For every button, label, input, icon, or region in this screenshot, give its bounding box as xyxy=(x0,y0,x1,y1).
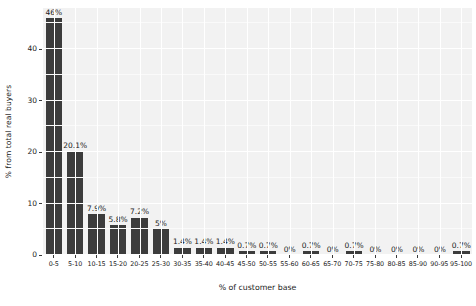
gridline-minor xyxy=(43,125,472,126)
x-axis-tick-mark xyxy=(353,255,354,258)
gridline-vertical xyxy=(375,8,376,255)
x-axis-tick: 0-5 xyxy=(43,255,64,279)
gridline-vertical xyxy=(290,8,291,255)
x-axis-tick: 90-95 xyxy=(429,255,450,279)
x-axis-tick-mark xyxy=(289,255,290,258)
x-axis-tick-label: 10-15 xyxy=(88,260,106,268)
x-axis-tick-mark xyxy=(396,255,397,258)
x-axis-tick-label: 50-55 xyxy=(259,260,277,268)
y-axis-tick-mark xyxy=(39,100,42,101)
x-axis-tick: 45-50 xyxy=(236,255,257,279)
x-axis-tick: 60-65 xyxy=(300,255,321,279)
x-axis-tick-label: 0-5 xyxy=(49,260,59,268)
x-axis-tick-mark xyxy=(310,255,311,258)
x-axis-tick: 15-20 xyxy=(107,255,128,279)
x-axis-tick: 75-80 xyxy=(364,255,385,279)
gridline-vertical xyxy=(311,8,312,255)
y-axis-tick-mark xyxy=(39,255,42,256)
bar-series: 46%20.1%7.9%5.8%7.2%5%1.4%1.4%1.4%0.7%0.… xyxy=(43,8,472,255)
gridline-vertical xyxy=(204,8,205,255)
y-axis-tick-label: 10 xyxy=(27,200,37,208)
y-axis-title-text: % from total real buyers xyxy=(5,84,14,177)
gridline-vertical xyxy=(97,8,98,255)
gridline-vertical xyxy=(418,8,419,255)
gridline-minor xyxy=(43,74,472,75)
x-axis-tick-mark xyxy=(117,255,118,258)
gridline-vertical xyxy=(140,8,141,255)
x-axis-tick-mark xyxy=(439,255,440,258)
gridline-major xyxy=(43,48,472,49)
x-axis-tick: 5-10 xyxy=(64,255,85,279)
x-axis-tick: 70-75 xyxy=(343,255,364,279)
y-axis-tick-mark xyxy=(39,49,42,50)
gridline-vertical xyxy=(161,8,162,255)
x-axis-tick-label: 65-70 xyxy=(323,260,341,268)
gridline-vertical xyxy=(333,8,334,255)
x-axis-tick: 30-35 xyxy=(172,255,193,279)
y-axis-tick-label: 40 xyxy=(27,45,37,53)
y-axis: 010203040 xyxy=(16,8,42,255)
x-axis-tick: 40-45 xyxy=(214,255,235,279)
x-axis-tick: 35-40 xyxy=(193,255,214,279)
x-axis-tick-label: 70-75 xyxy=(345,260,363,268)
x-axis: 0-55-1010-1515-2020-2525-3030-3535-4040-… xyxy=(43,255,472,279)
gridline-vertical xyxy=(354,8,355,255)
x-axis-tick-label: 15-20 xyxy=(109,260,127,268)
y-axis-tick-label: 20 xyxy=(27,148,37,156)
x-axis-tick-label: 35-40 xyxy=(195,260,213,268)
x-axis-tick-mark xyxy=(182,255,183,258)
x-axis-title: % of customer base xyxy=(43,283,472,292)
x-axis-tick: 50-55 xyxy=(257,255,278,279)
gridline-vertical xyxy=(54,8,55,255)
x-axis-tick-label: 55-60 xyxy=(280,260,298,268)
x-axis-tick-label: 95-100 xyxy=(450,260,472,268)
x-axis-tick-mark xyxy=(267,255,268,258)
x-axis-tick-mark xyxy=(417,255,418,258)
gridline-vertical xyxy=(75,8,76,255)
gridline-vertical xyxy=(118,8,119,255)
x-axis-tick-label: 85-90 xyxy=(409,260,427,268)
x-axis-tick: 55-60 xyxy=(279,255,300,279)
x-axis-tick-mark xyxy=(225,255,226,258)
gridline-vertical xyxy=(397,8,398,255)
x-axis-tick-mark xyxy=(139,255,140,258)
gridline-major xyxy=(43,151,472,152)
x-axis-tick: 80-85 xyxy=(386,255,407,279)
x-axis-tick-mark xyxy=(332,255,333,258)
x-axis-tick: 25-30 xyxy=(150,255,171,279)
x-axis-tick-label: 40-45 xyxy=(216,260,234,268)
y-axis-tick-mark xyxy=(39,152,42,153)
gridline-vertical xyxy=(182,8,183,255)
x-axis-tick-mark xyxy=(75,255,76,258)
plot-panel: 46%20.1%7.9%5.8%7.2%5%1.4%1.4%1.4%0.7%0.… xyxy=(43,8,472,255)
x-axis-tick-label: 30-35 xyxy=(173,260,191,268)
x-axis-tick-label: 90-95 xyxy=(430,260,448,268)
x-axis-tick-label: 80-85 xyxy=(387,260,405,268)
x-axis-tick-label: 75-80 xyxy=(366,260,384,268)
x-axis-tick: 10-15 xyxy=(86,255,107,279)
x-axis-tick-mark xyxy=(160,255,161,258)
x-axis-tick-mark xyxy=(96,255,97,258)
gridline-major xyxy=(43,203,472,204)
x-axis-tick-mark xyxy=(53,255,54,258)
x-axis-tick: 85-90 xyxy=(407,255,428,279)
x-axis-tick-label: 45-50 xyxy=(237,260,255,268)
x-axis-tick-label: 60-65 xyxy=(302,260,320,268)
y-axis-title: % from total real buyers xyxy=(2,0,16,262)
gridline-major xyxy=(43,100,472,101)
bar-chart: % from total real buyers 010203040 46%20… xyxy=(0,0,476,306)
y-axis-tick-label: 0 xyxy=(32,251,37,259)
gridline-vertical xyxy=(247,8,248,255)
x-axis-tick: 95-100 xyxy=(450,255,472,279)
x-axis-tick-label: 25-30 xyxy=(152,260,170,268)
x-axis-tick-label: 20-25 xyxy=(130,260,148,268)
gridline-vertical xyxy=(225,8,226,255)
gridline-minor xyxy=(43,228,472,229)
x-axis-tick: 20-25 xyxy=(129,255,150,279)
x-axis-tick-mark xyxy=(246,255,247,258)
x-axis-tick-label: 5-10 xyxy=(68,260,82,268)
gridline-vertical xyxy=(268,8,269,255)
gridline-minor xyxy=(43,22,472,23)
y-axis-tick-label: 30 xyxy=(27,97,37,105)
y-axis-tick-mark xyxy=(39,203,42,204)
